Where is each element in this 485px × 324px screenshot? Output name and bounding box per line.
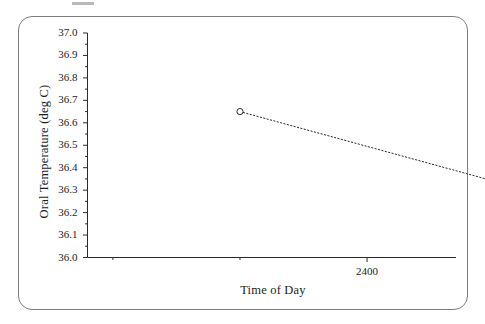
y-axis-tick-label: 36.9 [44,48,78,60]
x-axis-tick-label: 2400 [347,265,387,277]
figure-page: Oral Temperature (deg C) Time of Day 36.… [0,0,485,324]
y-axis-tick-label: 36.8 [44,71,78,83]
y-axis-tick-label: 36.2 [44,206,78,218]
y-axis-tick-label: 37.0 [44,26,78,38]
y-axis-tick-label: 36.6 [44,116,78,128]
y-axis-tick-label: 36.0 [44,251,78,263]
y-axis-tick-label: 36.7 [44,93,78,105]
x-axis-title: Time of Day [88,283,458,298]
y-axis-tick-label: 36.3 [44,183,78,195]
y-axis-tick-label: 36.4 [44,161,78,173]
temperature-line-chart: Oral Temperature (deg C) Time of Day 36.… [0,0,485,324]
y-axis-tick-label: 36.5 [44,138,78,150]
y-axis-tick-label: 36.1 [44,228,78,240]
